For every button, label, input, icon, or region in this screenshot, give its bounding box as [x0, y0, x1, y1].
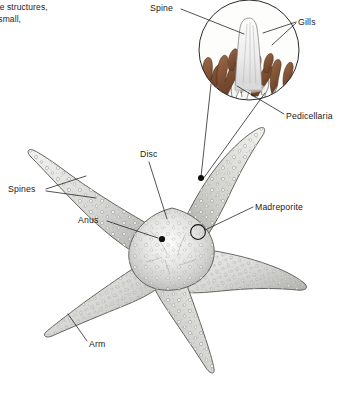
- label-anus: Anus: [78, 215, 98, 225]
- label-spine: Spine: [150, 3, 173, 13]
- inset-origin-dot: [198, 175, 204, 181]
- magnified-inset: [199, 0, 299, 100]
- figure-canvas: icate structures, e small, Spine Gills P…: [0, 0, 340, 393]
- caption-line-1: icate structures,: [0, 2, 48, 14]
- leader-disc: [149, 162, 167, 219]
- leader-inset-to-body-a: [201, 84, 211, 177]
- sea-star-body: [28, 128, 306, 373]
- label-arm: Arm: [89, 339, 105, 349]
- label-gills: Gills: [298, 17, 316, 27]
- label-madreporite: Madreporite: [255, 202, 303, 212]
- label-pedicellaria: Pedicellaria: [286, 111, 333, 121]
- label-spines: Spines: [8, 184, 35, 194]
- label-disc: Disc: [140, 149, 158, 159]
- caption-line-2: e small,: [0, 14, 21, 26]
- sea-star-illustration: [0, 0, 340, 393]
- anus-marker: [159, 236, 165, 242]
